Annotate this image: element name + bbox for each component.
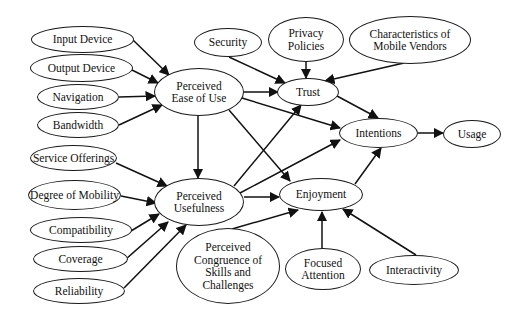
node-label: Intentions: [356, 127, 402, 140]
node-label: Privacy Policies: [288, 27, 324, 52]
node-vendors: Characteristics of Mobile Vendors: [349, 16, 471, 64]
node-mobility: Degree of Mobility: [28, 180, 121, 210]
node-input-device: Input Device: [31, 26, 134, 53]
node-navigation: Navigation: [37, 84, 119, 110]
arrow-service-to-pu: [116, 163, 167, 186]
node-interactivity: Interactivity: [369, 255, 459, 285]
node-label: Security: [209, 36, 247, 49]
node-label: Enjoyment: [296, 188, 346, 201]
node-label: Usage: [458, 128, 487, 141]
arrow-coverage-to-pu: [126, 222, 168, 259]
node-intentions: Intentions: [339, 118, 418, 148]
node-enjoyment: Enjoyment: [279, 178, 363, 211]
node-trust: Trust: [277, 78, 339, 106]
node-label: Focused Attention: [301, 257, 344, 282]
node-privacy: Privacy Policies: [268, 17, 344, 62]
node-label: Compatibility: [49, 224, 113, 237]
arrow-enjoyment-to-intentions: [355, 148, 381, 184]
node-label: Characteristics of Mobile Vendors: [370, 28, 451, 53]
node-bandwidth: Bandwidth: [37, 112, 119, 138]
arrow-output-device-to-peou: [132, 70, 158, 83]
node-reliability: Reliability: [33, 278, 125, 304]
node-label: Output Device: [48, 62, 115, 75]
node-peou: Perceived Ease of Use: [154, 68, 244, 116]
arrow-peou-to-enjoyment: [229, 110, 290, 181]
node-label: Input Device: [53, 33, 113, 46]
node-label: Trust: [296, 86, 320, 99]
node-output-device: Output Device: [30, 54, 133, 82]
node-coverage: Coverage: [33, 246, 128, 272]
node-usage: Usage: [443, 120, 501, 148]
node-label: Perceived Ease of Use: [172, 80, 227, 105]
node-service: Service Offerings: [30, 145, 117, 171]
arrow-bandwidth-to-peou: [119, 105, 162, 125]
node-label: Perceived Usefulness: [174, 190, 224, 215]
node-label: Interactivity: [386, 264, 442, 277]
node-security: Security: [194, 28, 262, 57]
node-pu: Perceived Usefulness: [154, 178, 244, 226]
node-label: Perceived Congruence of Skills and Chall…: [194, 241, 262, 291]
node-label: Coverage: [58, 253, 102, 266]
node-label: Bandwidth: [53, 119, 103, 132]
research-model-diagram: Input DeviceOutput DeviceNavigationBandw…: [0, 0, 523, 324]
node-focused: Focused Attention: [285, 248, 361, 290]
arrow-interactivity-to-enjoyment: [343, 209, 416, 255]
node-label: Reliability: [55, 285, 104, 298]
arrow-mobility-to-pu: [121, 196, 156, 203]
arrow-navigation-to-peou: [119, 96, 155, 97]
arrow-congruence-to-enjoyment: [232, 210, 298, 229]
node-compat: Compatibility: [30, 217, 132, 243]
arrow-pu-to-trust: [234, 105, 301, 186]
node-congruence: Perceived Congruence of Skills and Chall…: [176, 228, 280, 304]
arrow-compat-to-pu: [131, 214, 159, 231]
arrow-trust-to-intentions: [337, 96, 378, 118]
arrow-input-device-to-peou: [133, 40, 169, 75]
node-label: Degree of Mobility: [30, 189, 119, 202]
arrow-vendors-to-trust: [325, 63, 404, 81]
node-label: Service Offerings: [33, 152, 114, 165]
node-label: Navigation: [52, 91, 103, 104]
